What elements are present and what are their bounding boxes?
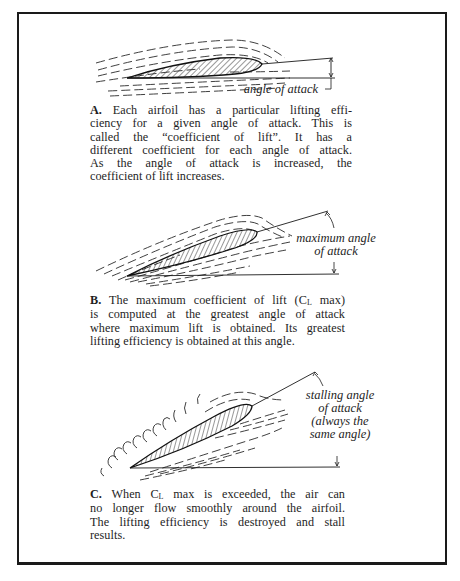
airfoil-shape [127, 58, 262, 78]
caption-c-line-3: The lifting efficiency is destroyed and … [90, 516, 345, 529]
caption-b-lead: B. [90, 293, 101, 307]
panel-c: stalling angle of attack (always the sam… [0, 370, 460, 570]
caption-b-line-3: where maximum lift is obtained. Its grea… [90, 322, 345, 335]
caption-a-lead: A. [90, 103, 102, 117]
caption-a: A. Each airfoil has a particular lifting… [90, 104, 352, 184]
caption-b-line-4: lifting efficiency is obtained at this a… [90, 335, 345, 348]
caption-a-line-3: called the “coefficient of lift”. It has… [90, 131, 352, 144]
caption-b-line-2: is computed at the greatest angle of att… [90, 308, 345, 321]
panel-b: maximum angle of attack B. The maximum c… [0, 200, 460, 380]
caption-c-line-2: no longer flow smoothly around the airfo… [90, 502, 345, 515]
angle-of-attack-label: angle of attack [236, 83, 326, 96]
airfoil-diagram-c [0, 370, 460, 485]
airfoil-diagram-b [0, 200, 460, 290]
caption-c-line-4: results. [90, 529, 345, 542]
caption-b: B. The maximum coefficient of lift (CL m… [90, 294, 345, 348]
airfoil-diagram-a [0, 0, 460, 110]
stalling-angle-of-attack-label: stalling angle of attack (always the sam… [290, 389, 390, 441]
caption-c-lead: C. [90, 487, 102, 501]
maximum-angle-of-attack-label: maximum angle of attack [286, 232, 386, 258]
panel-a: angle of attack A. Each airfoil has a pa… [0, 0, 460, 190]
caption-a-line-2: ciency for a given angle of attack. This… [90, 117, 352, 130]
caption-a-line-6: coefficient of lift increases. [90, 170, 352, 183]
caption-a-line-5: As the angle of attack is increased, the [90, 157, 352, 170]
caption-c: C. When CL max is exceeded, the air can … [90, 488, 345, 542]
caption-a-line-1: Each airfoil has a particular lifting ef… [113, 103, 352, 117]
airfoil-shape [127, 230, 257, 276]
caption-a-line-4: different coefficient for each angle of … [90, 144, 352, 157]
